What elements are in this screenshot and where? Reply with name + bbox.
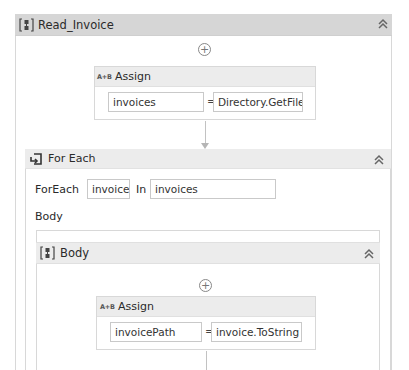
in-label: In	[136, 183, 146, 196]
sequence-title: Read_Invoice	[38, 18, 114, 32]
double-chevron-up-icon[interactable]	[378, 18, 388, 30]
connector-line	[206, 351, 207, 370]
assign-icon: A+B	[97, 73, 112, 81]
double-chevron-up-icon[interactable]	[374, 154, 384, 166]
add-activity-plus-icon[interactable]: +	[198, 43, 211, 56]
assign-value-field[interactable]: Directory.GetFiles(c	[213, 92, 303, 112]
foreach-icon	[29, 152, 43, 166]
foreach-item-field[interactable]: invoice	[87, 179, 130, 199]
sequence-icon	[19, 18, 34, 32]
for-each-title: For Each	[48, 152, 95, 165]
sequence-icon	[40, 246, 55, 260]
assign-to-field[interactable]: invoices	[108, 92, 204, 112]
foreach-collection-field[interactable]: invoices	[150, 179, 276, 199]
add-activity-plus-icon[interactable]: +	[199, 279, 212, 292]
assign-to-field[interactable]: invoicePath	[110, 322, 202, 342]
body-label: Body	[35, 210, 63, 223]
body-sequence-title: Body	[60, 246, 89, 260]
assign-icon: A+B	[100, 303, 115, 311]
assign-title: Assign	[118, 300, 154, 313]
foreach-label: ForEach	[35, 183, 79, 196]
double-chevron-up-icon[interactable]	[364, 248, 374, 260]
assign-value-field[interactable]: invoice.ToString	[211, 322, 302, 342]
connector-line	[205, 121, 206, 144]
assign-title: Assign	[115, 70, 151, 83]
